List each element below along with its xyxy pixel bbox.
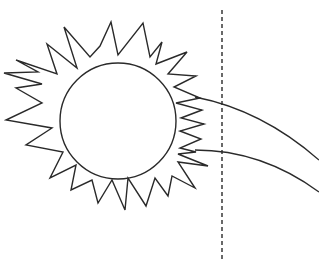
sun-rays-outline: [4, 22, 208, 210]
diagram-canvas: [0, 0, 319, 266]
lower-ray-curve: [195, 150, 319, 192]
sun-core-circle: [60, 63, 176, 179]
sun-diagram: [0, 0, 319, 266]
